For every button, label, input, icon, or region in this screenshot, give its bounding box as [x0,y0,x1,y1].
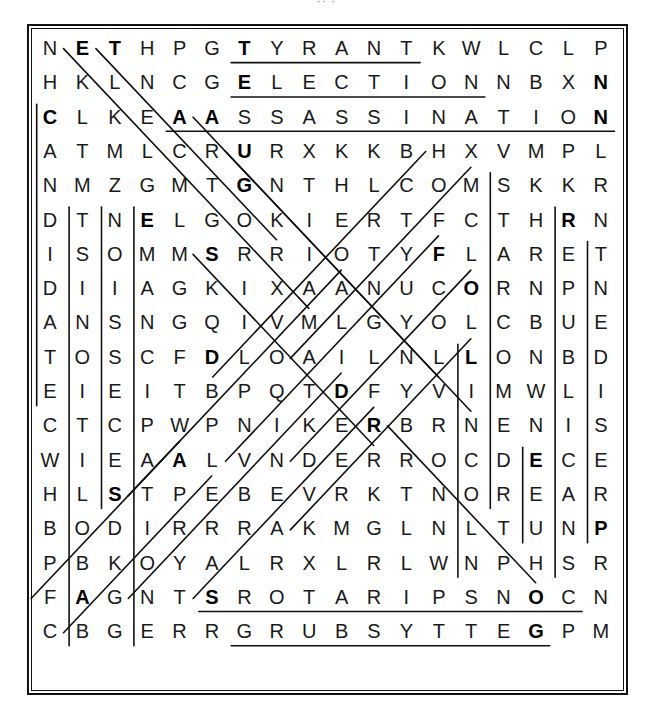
grid-letter[interactable]: Y [390,306,422,339]
grid-letter[interactable]: P [552,615,584,648]
grid-letter[interactable]: T [228,32,260,65]
grid-letter[interactable]: A [293,101,325,134]
grid-letter[interactable]: R [488,478,520,511]
grid-letter[interactable]: L [552,375,584,408]
grid-letter[interactable]: T [164,375,196,408]
grid-letter[interactable]: B [326,615,358,648]
grid-letter[interactable]: W [164,409,196,442]
grid-letter[interactable]: C [488,306,520,339]
grid-letter[interactable]: L [390,547,422,580]
grid-letter[interactable]: H [423,135,455,168]
grid-letter[interactable]: O [99,238,131,271]
grid-letter[interactable]: I [520,101,552,134]
grid-letter[interactable]: E [585,306,617,339]
grid-letter[interactable]: N [66,306,98,339]
grid-letter[interactable]: A [196,547,228,580]
grid-letter[interactable]: C [99,409,131,442]
grid-letter[interactable]: F [34,581,66,614]
grid-letter[interactable]: P [552,272,584,305]
grid-letter[interactable]: F [423,204,455,237]
grid-letter[interactable]: G [99,581,131,614]
grid-letter[interactable]: G [164,306,196,339]
grid-letter[interactable]: H [131,32,163,65]
grid-letter[interactable]: R [358,204,390,237]
grid-letter[interactable]: O [552,101,584,134]
grid-letter[interactable]: R [358,547,390,580]
grid-letter[interactable]: E [99,444,131,477]
grid-letter[interactable]: A [293,341,325,374]
grid-letter[interactable]: E [228,66,260,99]
grid-letter[interactable]: S [99,478,131,511]
grid-letter[interactable]: P [34,547,66,580]
grid-letter[interactable]: A [196,101,228,134]
grid-letter[interactable]: N [520,409,552,442]
grid-letter[interactable]: S [488,169,520,202]
grid-letter[interactable]: Y [390,375,422,408]
grid-letter[interactable]: K [423,32,455,65]
grid-letter[interactable]: Y [261,32,293,65]
grid-letter[interactable]: R [358,581,390,614]
grid-letter[interactable]: E [261,478,293,511]
grid-letter[interactable]: M [488,375,520,408]
grid-letter[interactable]: G [196,204,228,237]
grid-letter[interactable]: K [520,169,552,202]
grid-letter[interactable]: N [488,581,520,614]
grid-letter[interactable]: R [164,615,196,648]
grid-letter[interactable]: K [66,66,98,99]
grid-letter[interactable]: M [293,306,325,339]
grid-letter[interactable]: W [455,32,487,65]
grid-letter[interactable]: D [34,204,66,237]
grid-letter[interactable]: L [455,341,487,374]
grid-letter[interactable]: N [423,478,455,511]
grid-letter[interactable]: T [585,238,617,271]
grid-letter[interactable]: E [131,101,163,134]
grid-letter[interactable]: D [585,341,617,374]
grid-letter[interactable]: B [196,375,228,408]
grid-letter[interactable]: K [99,101,131,134]
grid-letter[interactable]: L [326,306,358,339]
grid-letter[interactable]: L [131,135,163,168]
grid-letter[interactable]: W [34,444,66,477]
grid-letter[interactable]: R [488,272,520,305]
grid-letter[interactable]: I [66,444,98,477]
grid-letter[interactable]: I [66,375,98,408]
grid-letter[interactable]: R [196,512,228,545]
grid-letter[interactable]: E [520,478,552,511]
grid-letter[interactable]: I [228,306,260,339]
grid-letter[interactable]: L [261,66,293,99]
grid-letter[interactable]: O [66,341,98,374]
grid-letter[interactable]: L [455,238,487,271]
grid-letter[interactable]: T [455,615,487,648]
grid-letter[interactable]: S [196,238,228,271]
grid-letter[interactable]: Y [164,547,196,580]
grid-letter[interactable]: R [585,478,617,511]
grid-letter[interactable]: H [34,66,66,99]
grid-letter[interactable]: E [488,409,520,442]
grid-letter[interactable]: L [196,444,228,477]
grid-letter[interactable]: A [455,101,487,134]
grid-letter[interactable]: L [228,547,260,580]
grid-letter[interactable]: T [488,512,520,545]
grid-letter[interactable]: M [131,238,163,271]
grid-letter[interactable]: M [164,169,196,202]
grid-letter[interactable]: T [34,341,66,374]
grid-letter[interactable]: G [358,512,390,545]
grid-letter[interactable]: T [66,204,98,237]
grid-letter[interactable]: H [520,204,552,237]
grid-letter[interactable]: M [585,615,617,648]
grid-letter[interactable]: N [261,169,293,202]
grid-letter[interactable]: I [390,66,422,99]
grid-letter[interactable]: V [228,444,260,477]
grid-letter[interactable]: T [164,581,196,614]
grid-letter[interactable]: N [358,32,390,65]
grid-letter[interactable]: M [520,135,552,168]
grid-letter[interactable]: T [488,101,520,134]
grid-letter[interactable]: I [261,409,293,442]
grid-letter[interactable]: R [261,238,293,271]
grid-letter[interactable]: I [390,101,422,134]
grid-letter[interactable]: C [34,409,66,442]
grid-letter[interactable]: S [196,581,228,614]
grid-letter[interactable]: H [326,169,358,202]
grid-letter[interactable]: C [164,66,196,99]
grid-letter[interactable]: A [326,32,358,65]
